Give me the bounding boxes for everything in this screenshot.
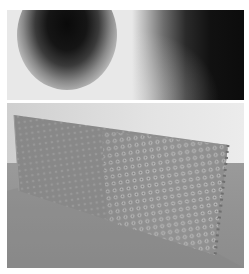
- lattice-photo-panel: [7, 103, 244, 268]
- blurred-pattern-panel: [7, 10, 244, 100]
- dark-blob: [17, 10, 117, 90]
- gradient-fade: [132, 10, 244, 100]
- lattice-panel-object: [7, 103, 244, 268]
